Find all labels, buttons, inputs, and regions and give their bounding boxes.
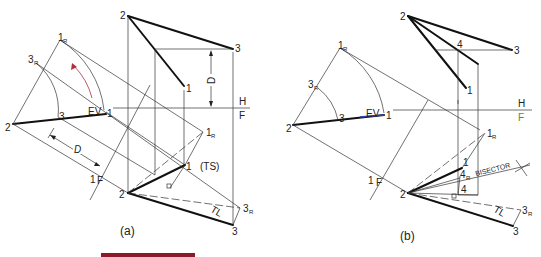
figure-a-aux-view: D 2 3 EV 1 1 R 3 R 1 F	[5, 32, 240, 208]
b-front-point-3-label: 3	[513, 226, 519, 237]
caption-b: (b)	[400, 229, 415, 243]
figure-b-front-view: 2 1 3 4 4 R 1 R 3 R BISECTOR TL	[400, 128, 533, 237]
fold-h-label: H	[239, 96, 246, 107]
figure-a-top-view: D H F 2 3 1	[113, 10, 250, 225]
figure-b-aux-view: 2 3 EV 1 1 R 3 R 1 F	[286, 40, 480, 200]
descriptive-geometry-diagram: D H F 2 3 1	[0, 0, 541, 257]
front-point-2-label: 2	[119, 189, 125, 200]
b-aux-point-1-label: 1	[386, 110, 392, 121]
b-point-2-label: 2	[400, 11, 406, 22]
fold-1-label: 1	[90, 174, 96, 185]
decorative-bar	[101, 253, 195, 257]
bisector-label: BISECTOR	[475, 162, 511, 177]
point-1-label: 1	[186, 83, 192, 94]
point-2-label: 2	[120, 10, 126, 21]
front-point-1-label: 1	[186, 161, 192, 172]
b-front-point-1-label: 1	[463, 157, 469, 168]
b-fold-f-aux-label: F	[376, 177, 382, 188]
front-point-3r-sub: R	[249, 209, 254, 215]
b-front-point-1r-sub: R	[492, 134, 497, 140]
b-point-3r-sub: R	[314, 85, 319, 91]
point-1r-sub: R	[63, 38, 68, 44]
b-ev-label: EV	[366, 108, 380, 119]
figure-a-front-view: 2 1 3 1 R 3 R (TS) TL	[119, 127, 254, 237]
b-fold-1-label: 1	[368, 175, 374, 186]
ev-label: EV	[88, 106, 102, 117]
figure-a: D H F 2 3 1	[5, 10, 254, 238]
b-front-point-4-label: 4	[461, 184, 467, 195]
b-aux-point-3-label: 3	[339, 113, 345, 124]
b-aux-point-2-label: 2	[286, 123, 292, 134]
aux-point-2-label: 2	[5, 122, 11, 133]
caption-a: (a)	[120, 224, 135, 238]
aux-point-3-label: 3	[59, 111, 65, 122]
figure-b: H F 2 3 1 4 2 3 EV 1 1 R 3 R 1 F	[286, 11, 533, 243]
dim-d-label: D	[206, 77, 217, 84]
b-front-point-3r-sub: R	[528, 211, 533, 217]
b-front-point-2-label: 2	[400, 189, 406, 200]
b-tl-label: TL	[492, 203, 508, 219]
b-fold-h-label: H	[518, 98, 525, 109]
b-point-1-label: 1	[467, 85, 473, 96]
b-point-4-label: 4	[457, 39, 463, 50]
b-point-3-label: 3	[514, 45, 520, 56]
ts-label: (TS)	[200, 161, 219, 172]
point-3r-sub: R	[34, 60, 39, 66]
aux-point-1-label: 1	[107, 108, 113, 119]
fold-f-aux-label: F	[97, 175, 103, 186]
front-point-3-label: 3	[232, 226, 238, 237]
point-3-label: 3	[235, 43, 241, 54]
b-point-1r-sub: R	[343, 46, 348, 52]
b-front-point-4r-sub: R	[466, 175, 471, 181]
front-point-1r-sub: R	[211, 133, 216, 139]
fold-f-label: F	[239, 110, 245, 121]
b-fold-f-label: F	[518, 112, 524, 123]
dim-d-aux-label: D	[74, 144, 81, 155]
